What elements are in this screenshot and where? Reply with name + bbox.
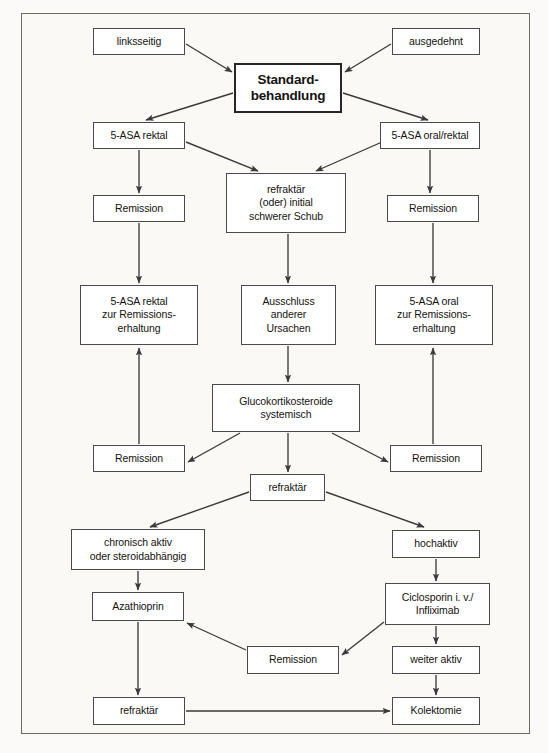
node-remission-bottom: Remission	[247, 646, 339, 674]
node-refraktaer-initial: refraktär (oder) initial schwerer Schub	[226, 173, 346, 233]
node-asa-oral-erhaltung: 5-ASA oral zur Remissions- erhaltung	[375, 285, 493, 345]
node-linksseitig: linksseitig	[93, 28, 185, 55]
node-remission-right-1: Remission	[387, 195, 479, 222]
node-glucokortikosteroide: Glucokortikosteroide systemisch	[212, 384, 360, 432]
node-refraktaer-bottom: refraktär	[93, 697, 185, 725]
node-hochaktiv: hochaktiv	[392, 530, 480, 558]
node-azathioprin: Azathioprin	[92, 592, 184, 621]
node-remission-right-2: Remission	[390, 445, 482, 472]
node-refraktaer-mid: refraktär	[250, 474, 325, 501]
node-ausschluss: Ausschluss anderer Ursachen	[241, 285, 336, 345]
node-weiter-aktiv: weiter aktiv	[392, 646, 480, 674]
node-remission-left-2: Remission	[93, 445, 185, 472]
node-remission-left-1: Remission	[93, 195, 185, 222]
node-ausgedehnt: ausgedehnt	[392, 28, 480, 55]
node-asa-rektal: 5-ASA rektal	[93, 122, 185, 149]
node-ciclosporin-infliximab: Ciclosporin i. v./ Infliximab	[385, 583, 490, 625]
node-chronisch-aktiv: chronisch aktiv oder steroidabhängig	[71, 529, 205, 570]
node-kolektomie: Kolektomie	[392, 697, 480, 725]
figure-page: linksseitig ausgedehnt Standard- behandl…	[0, 0, 548, 753]
node-standardbehandlung: Standard- behandlung	[234, 63, 342, 113]
node-asa-rektal-erhaltung: 5-ASA rektal zur Remissions- erhaltung	[80, 285, 198, 345]
node-asa-oral-rektal: 5-ASA oral/rektal	[380, 122, 480, 149]
